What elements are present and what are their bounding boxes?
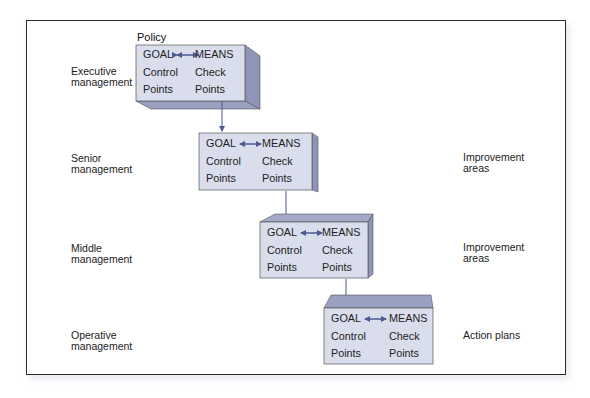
goal-label: GOAL [143, 46, 173, 64]
level-label-middle: Middle management [71, 243, 132, 265]
box-text-operative: GOALMEANS ControlCheck PointsPoints [331, 310, 427, 363]
level-label-senior: Senior management [71, 153, 132, 175]
outcome-label-middle: Improvement areas [463, 242, 524, 264]
control-label: Control [143, 64, 195, 82]
check-label: Check [195, 64, 226, 82]
outcome-label-senior: Improvement areas [463, 152, 524, 174]
means-label: MEANS [262, 135, 300, 153]
points-label: Points [206, 170, 262, 188]
box-text-senior: GOALMEANS ControlCheck PointsPoints [206, 135, 300, 188]
points-label: Points [331, 345, 389, 363]
box-text-executive: GOALMEANS ControlCheck PointsPoints [143, 46, 233, 99]
goal-label: GOAL [206, 135, 236, 153]
check-label: Check [322, 242, 353, 260]
goal-label: GOAL [331, 310, 361, 328]
points-label: Points [322, 259, 352, 277]
level-label-executive: Executive management [71, 66, 132, 88]
check-label: Check [262, 153, 293, 171]
control-label: Control [206, 153, 262, 171]
check-label: Check [389, 328, 420, 346]
means-label: MEANS [389, 310, 427, 328]
means-label: MEANS [195, 46, 233, 64]
means-label: MEANS [322, 224, 360, 242]
points-label: Points [267, 259, 322, 277]
box-text-middle: GOALMEANS ControlCheck PointsPoints [267, 224, 360, 277]
points-label: Points [262, 170, 292, 188]
outcome-label-operative: Action plans [463, 330, 520, 341]
policy-label: Policy [137, 31, 166, 43]
control-label: Control [267, 242, 322, 260]
points-label: Points [195, 81, 225, 99]
control-label: Control [331, 328, 389, 346]
points-label: Points [143, 81, 195, 99]
points-label: Points [389, 345, 419, 363]
level-label-operative: Operative management [71, 330, 132, 352]
goal-label: GOAL [267, 224, 297, 242]
